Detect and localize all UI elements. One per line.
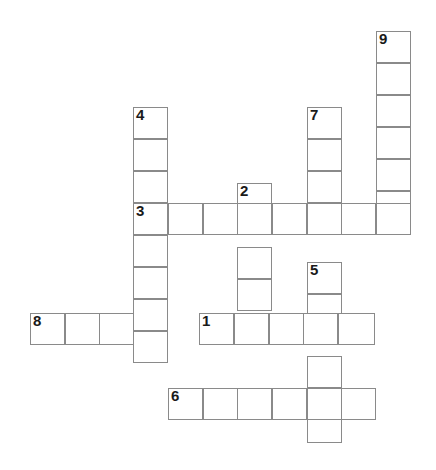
clue-number-8: 8: [33, 313, 41, 329]
cell-row1-c4[interactable]: [338, 313, 375, 345]
cell-c4-r7[interactable]: [133, 331, 168, 363]
cell-row3-c2[interactable]: [203, 203, 238, 235]
cell-c9-r3[interactable]: [376, 127, 411, 159]
cell-c5-r0[interactable]: 5: [307, 262, 342, 294]
cell-c9-r2[interactable]: [376, 95, 411, 127]
cell-row1-c0[interactable]: 1: [199, 313, 234, 345]
clue-number-3: 3: [136, 203, 144, 219]
clue-number-4: 4: [136, 107, 144, 123]
cell-row3-c5[interactable]: [307, 203, 342, 235]
cell-row1-c3[interactable]: [303, 313, 338, 345]
cell-row8-c0[interactable]: 8: [30, 313, 65, 345]
cell-row6-c4[interactable]: [307, 388, 342, 420]
cell-c4-r5[interactable]: [133, 267, 168, 299]
cell-row3-c6[interactable]: [341, 203, 376, 235]
cell-row3-c1[interactable]: [168, 203, 203, 235]
cell-c9-r1[interactable]: [376, 63, 411, 95]
cell-row3-c3[interactable]: [237, 203, 272, 235]
cell-c7-r1[interactable]: [307, 139, 342, 171]
cell-row8-c2[interactable]: [99, 313, 134, 345]
cell-row1-c2[interactable]: [269, 313, 304, 345]
cell-row3-c7[interactable]: [376, 203, 411, 235]
crossword-grid: 947235816: [0, 0, 436, 470]
cell-row3-c4[interactable]: [272, 203, 307, 235]
cell-c7-r2[interactable]: [307, 171, 342, 203]
clue-number-1: 1: [202, 313, 210, 329]
clue-number-9: 9: [379, 31, 387, 47]
cell-c2-r3[interactable]: [237, 279, 272, 311]
cell-c5-r3[interactable]: [307, 356, 342, 388]
clue-number-2: 2: [240, 183, 248, 199]
cell-row6-c3[interactable]: [272, 388, 307, 420]
cell-c9-r0[interactable]: 9: [376, 31, 411, 63]
cell-row3-c0[interactable]: 3: [133, 203, 168, 235]
cell-c4-r2[interactable]: [133, 171, 168, 203]
clue-number-7: 7: [310, 107, 318, 123]
cell-c7-r0[interactable]: 7: [307, 107, 342, 139]
cell-row1-c1[interactable]: [234, 313, 269, 345]
cell-c2-r2[interactable]: [237, 247, 272, 279]
cell-row8-c1[interactable]: [65, 313, 100, 345]
cell-c4-r6[interactable]: [133, 299, 168, 331]
cell-c4-r1[interactable]: [133, 139, 168, 171]
clue-number-5: 5: [310, 262, 318, 278]
cell-row6-c2[interactable]: [237, 388, 272, 420]
cell-row6-c0[interactable]: 6: [168, 388, 203, 420]
cell-row6-c5[interactable]: [341, 388, 376, 420]
cell-c4-r4[interactable]: [133, 235, 168, 267]
clue-number-6: 6: [171, 388, 179, 404]
cell-row6-c1[interactable]: [203, 388, 238, 420]
cell-c4-r0[interactable]: 4: [133, 107, 168, 139]
cell-c9-r4[interactable]: [376, 159, 411, 191]
